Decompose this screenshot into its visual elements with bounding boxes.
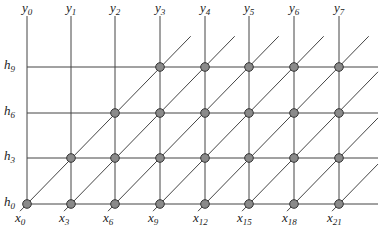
lattice-node (23, 200, 32, 209)
lattice-node (245, 154, 254, 163)
diagonal-line (198, 36, 369, 211)
column-label: y4 (198, 0, 211, 17)
lattice-node (111, 109, 120, 118)
lattice-node (245, 200, 254, 209)
diagonal-line (64, 36, 235, 211)
lattice-node (290, 154, 299, 163)
lattice-node (111, 154, 120, 163)
lattice-node (201, 154, 210, 163)
diagonal-line (153, 36, 324, 211)
lattice-node (335, 154, 344, 163)
lattice-node (290, 200, 299, 209)
lattice-node (245, 63, 254, 72)
bottom-label: x3 (58, 210, 70, 227)
diagonal-line (108, 36, 279, 211)
lattice-node (335, 200, 344, 209)
row-label: h0 (4, 194, 16, 211)
bottom-label: x9 (147, 210, 159, 227)
lattice-node (156, 154, 165, 163)
diagonal-line (242, 72, 378, 211)
column-label: y2 (108, 0, 121, 17)
lattice-node (111, 200, 120, 209)
bottom-label: x0 (14, 210, 26, 227)
bottom-label: x15 (236, 210, 252, 227)
diagonal-line (20, 36, 191, 211)
diagonal-line (287, 118, 378, 211)
lattice-node (156, 109, 165, 118)
lattice-node (67, 200, 76, 209)
column-label: y5 (242, 0, 255, 17)
column-label: y1 (64, 0, 76, 17)
row-label: h6 (4, 103, 16, 120)
column-label: y7 (332, 0, 345, 17)
lattice-node (290, 63, 299, 72)
lattice-node (290, 109, 299, 118)
lattice-node (156, 63, 165, 72)
lattice-diagram: y0y1y2y3y4y5y6y7h9h6h3h0x0x3x6x9x12x15x1… (0, 0, 385, 231)
column-label: y3 (153, 0, 166, 17)
lattice-node (201, 200, 210, 209)
bottom-label: x6 (102, 210, 114, 227)
column-label: y0 (20, 0, 33, 17)
bottom-label: x12 (192, 210, 208, 227)
diagonal-lines (20, 36, 378, 211)
row-label: h3 (4, 148, 16, 165)
row-label: h9 (4, 57, 16, 74)
bottom-label: x18 (281, 210, 297, 227)
lattice-node (201, 109, 210, 118)
lattice-node (156, 200, 165, 209)
lattice-node (335, 63, 344, 72)
bottom-label: x21 (326, 210, 342, 227)
column-label: y6 (287, 0, 300, 17)
lattice-node (201, 63, 210, 72)
lattice-node (67, 154, 76, 163)
lattice-node (335, 109, 344, 118)
lattice-node (245, 109, 254, 118)
